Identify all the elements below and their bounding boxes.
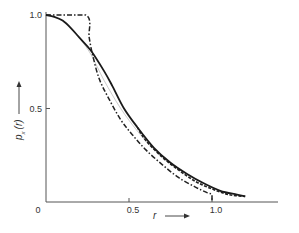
series-dash-dot-line xyxy=(46,15,212,200)
y-ticks: 0.51.0 xyxy=(29,10,50,114)
arrow-right-icon xyxy=(184,214,190,219)
y-tick-label: 1.0 xyxy=(29,10,42,20)
series-dashed-line xyxy=(137,127,245,196)
x-tick-label: 0 xyxy=(35,205,40,215)
arrow-up-icon xyxy=(17,81,22,87)
x-axis-label: r xyxy=(153,210,190,221)
y-axis-label-text: px(r) xyxy=(13,119,26,141)
series-group xyxy=(46,15,245,200)
x-axis-label-text: r xyxy=(153,210,157,221)
x-tick-label: 1.0 xyxy=(210,205,223,215)
x-ticks: 00.51.0 xyxy=(35,198,222,215)
chart: 0.51.0 00.51.0 r px(r) xyxy=(0,0,299,233)
y-tick-label: 0.5 xyxy=(29,104,42,114)
series-solid-line xyxy=(46,15,245,196)
y-label-r: (r) xyxy=(13,119,24,129)
y-axis-label: px(r) xyxy=(13,81,26,141)
axes xyxy=(46,12,278,202)
x-tick-label: 0.5 xyxy=(127,205,140,215)
y-label-sub: x xyxy=(20,130,26,135)
